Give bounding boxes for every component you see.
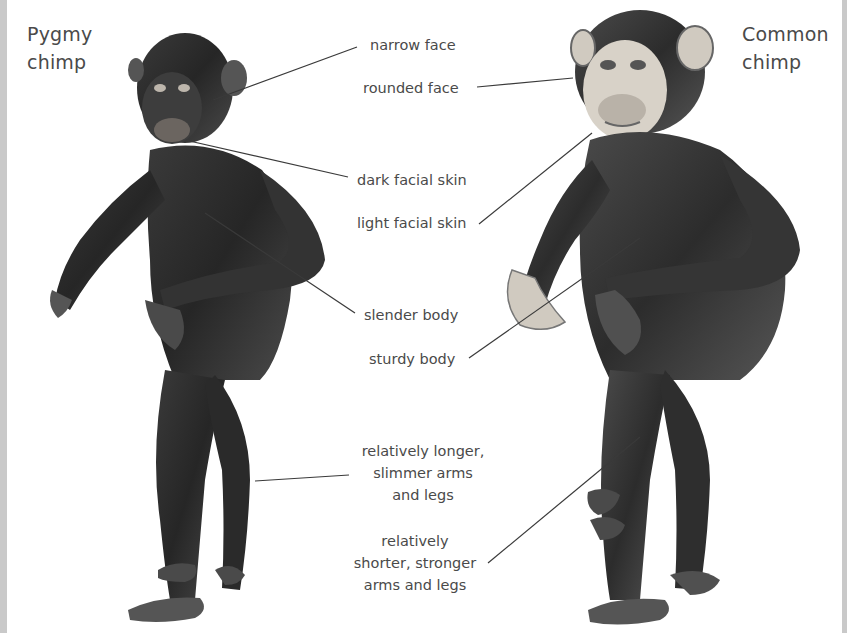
label-longer-limbs: relatively longer, slimmer arms and legs (348, 440, 498, 506)
label-longer-limbs-line-1: relatively longer, (348, 440, 498, 462)
label-narrow-face: narrow face (370, 34, 456, 56)
label-shorter-limbs-line-2: shorter, stronger (340, 552, 490, 574)
common-chimp-title: Common chimp (742, 20, 829, 76)
label-shorter-limbs-line-3: arms and legs (340, 574, 490, 596)
pygmy-chimp-illustration (50, 33, 325, 622)
label-shorter-limbs: relatively shorter, stronger arms and le… (340, 530, 490, 596)
common-chimp-illustration (508, 10, 801, 625)
pygmy-title-line-1: Pygmy (27, 20, 93, 48)
pygmy-title-line-2: chimp (27, 48, 93, 76)
figure-frame: Pygmy chimp Common chimp narrow face rou… (0, 0, 847, 633)
common-title-line-1: Common (742, 20, 829, 48)
label-sturdy-body: sturdy body (369, 348, 455, 370)
label-longer-limbs-line-3: and legs (348, 484, 498, 506)
label-light-facial-skin: light facial skin (357, 212, 466, 234)
common-title-line-2: chimp (742, 48, 829, 76)
label-dark-facial-skin: dark facial skin (357, 169, 467, 191)
label-slender-body: slender body (364, 304, 458, 326)
label-shorter-limbs-line-1: relatively (340, 530, 490, 552)
label-longer-limbs-line-2: slimmer arms (348, 462, 498, 484)
pygmy-chimp-title: Pygmy chimp (27, 20, 93, 76)
label-rounded-face: rounded face (363, 77, 459, 99)
